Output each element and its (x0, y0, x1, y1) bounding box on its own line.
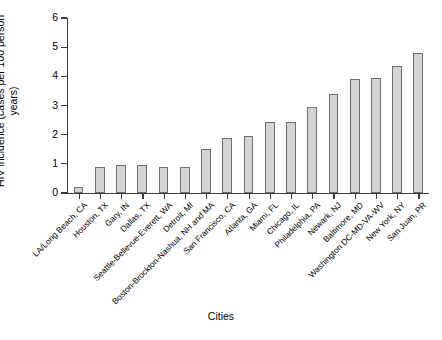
x-tick-mark (79, 194, 80, 199)
y-axis-title: HIV incidence (cases per 100 person year… (0, 6, 28, 196)
y-tick-mark (61, 17, 67, 18)
y-tick-label: 1 (36, 157, 58, 169)
y-tick-mark (61, 105, 67, 106)
y-tick-mark (61, 76, 67, 77)
y-tick-label: 0 (36, 186, 58, 198)
bar (74, 187, 84, 193)
y-tick-mark (61, 163, 67, 164)
y-tick-label: 6 (36, 11, 58, 23)
y-tick-mark (61, 134, 67, 135)
x-axis-title: Cities (0, 310, 442, 322)
y-tick-label: 4 (36, 69, 58, 81)
y-tick-label: 5 (36, 40, 58, 52)
y-tick-label: 2 (36, 128, 58, 140)
y-tick-mark (61, 192, 67, 193)
hiv-incidence-bar-chart: HIV incidence (cases per 100 person year… (0, 0, 442, 340)
y-tick-label: 3 (36, 99, 58, 111)
y-tick-mark (61, 47, 67, 48)
